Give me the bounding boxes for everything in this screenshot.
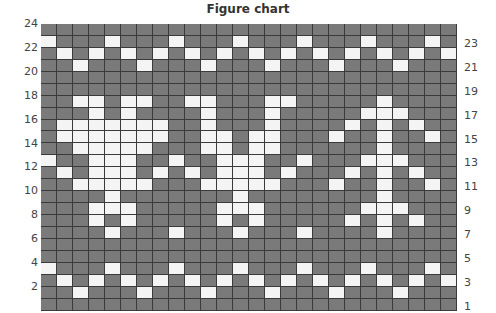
grid-cell bbox=[441, 131, 457, 143]
grid-cell bbox=[105, 24, 121, 36]
grid-cell bbox=[185, 263, 201, 275]
grid-cell bbox=[73, 131, 89, 143]
grid-cell bbox=[233, 299, 249, 311]
grid-cell bbox=[313, 299, 329, 311]
grid-cell bbox=[345, 131, 361, 143]
grid-cell bbox=[153, 263, 169, 275]
grid-cell bbox=[105, 287, 121, 299]
grid-cell bbox=[425, 72, 441, 84]
grid-cell bbox=[409, 251, 425, 263]
grid-cell bbox=[153, 108, 169, 120]
grid-cell bbox=[361, 72, 377, 84]
grid-cell bbox=[265, 263, 281, 275]
grid-cell bbox=[297, 108, 313, 120]
grid-cell bbox=[329, 179, 345, 191]
grid-cell bbox=[57, 72, 73, 84]
grid-cell bbox=[153, 143, 169, 155]
grid-cell bbox=[393, 60, 409, 72]
grid-cell bbox=[361, 215, 377, 227]
grid-cell bbox=[313, 84, 329, 96]
grid-cell bbox=[281, 299, 297, 311]
grid-cell bbox=[57, 239, 73, 251]
grid-cell bbox=[361, 48, 377, 60]
grid-cell bbox=[281, 72, 297, 84]
grid-cell bbox=[345, 251, 361, 263]
grid-cell bbox=[217, 120, 233, 132]
grid-cell bbox=[185, 84, 201, 96]
grid-cell bbox=[201, 96, 217, 108]
grid-cell bbox=[265, 120, 281, 132]
grid-cell bbox=[233, 179, 249, 191]
grid-cell bbox=[121, 155, 137, 167]
grid-cell bbox=[297, 167, 313, 179]
grid-cell bbox=[217, 84, 233, 96]
grid-cell bbox=[121, 48, 137, 60]
grid-cell bbox=[313, 167, 329, 179]
grid-cell bbox=[441, 60, 457, 72]
grid-cell bbox=[201, 191, 217, 203]
grid-cell bbox=[185, 96, 201, 108]
grid-cell bbox=[41, 84, 57, 96]
grid-cell bbox=[329, 203, 345, 215]
grid-cell bbox=[265, 227, 281, 239]
grid-cell bbox=[57, 48, 73, 60]
grid-cell bbox=[265, 191, 281, 203]
grid-cell bbox=[425, 287, 441, 299]
grid-cell bbox=[105, 143, 121, 155]
grid-cell bbox=[73, 48, 89, 60]
grid-cell bbox=[345, 108, 361, 120]
grid-cell bbox=[233, 96, 249, 108]
grid-cell bbox=[57, 227, 73, 239]
grid-cell bbox=[121, 287, 137, 299]
grid-cell bbox=[41, 167, 57, 179]
grid-cell bbox=[185, 60, 201, 72]
grid-cell bbox=[73, 155, 89, 167]
grid-cell bbox=[313, 72, 329, 84]
grid-cell bbox=[153, 60, 169, 72]
grid-cell bbox=[233, 203, 249, 215]
grid-cell bbox=[73, 239, 89, 251]
grid-cell bbox=[89, 251, 105, 263]
grid-cell bbox=[265, 251, 281, 263]
grid-cell bbox=[73, 227, 89, 239]
row-label-right: 9 bbox=[464, 205, 484, 217]
row-label-right: 23 bbox=[464, 38, 484, 50]
grid-cell bbox=[377, 84, 393, 96]
grid-cell bbox=[169, 239, 185, 251]
grid-cell bbox=[57, 299, 73, 311]
grid-cell bbox=[425, 96, 441, 108]
grid-cell bbox=[297, 120, 313, 132]
grid-cell bbox=[121, 215, 137, 227]
grid-cell bbox=[281, 36, 297, 48]
grid-cell bbox=[105, 275, 121, 287]
grid-cell bbox=[57, 36, 73, 48]
grid-cell bbox=[441, 287, 457, 299]
grid-cell bbox=[345, 239, 361, 251]
grid-cell bbox=[137, 84, 153, 96]
grid-cell bbox=[409, 131, 425, 143]
grid-cell bbox=[377, 227, 393, 239]
grid-cell bbox=[281, 143, 297, 155]
grid-cell bbox=[89, 227, 105, 239]
grid-cell bbox=[313, 24, 329, 36]
grid-cell bbox=[281, 120, 297, 132]
grid-cell bbox=[313, 215, 329, 227]
grid-cell bbox=[441, 215, 457, 227]
row-label-left: 10 bbox=[22, 185, 38, 197]
grid-cell bbox=[121, 120, 137, 132]
grid-cell bbox=[297, 48, 313, 60]
grid-cell bbox=[89, 275, 105, 287]
grid-cell bbox=[89, 96, 105, 108]
grid-cell bbox=[121, 191, 137, 203]
grid-cell bbox=[89, 60, 105, 72]
grid-cell bbox=[297, 155, 313, 167]
grid-cell bbox=[57, 191, 73, 203]
grid-cell bbox=[73, 203, 89, 215]
grid-cell bbox=[361, 108, 377, 120]
grid-cell bbox=[377, 263, 393, 275]
grid-cell bbox=[361, 60, 377, 72]
grid-cell bbox=[425, 227, 441, 239]
grid-cell bbox=[361, 227, 377, 239]
grid-cell bbox=[41, 60, 57, 72]
grid-cell bbox=[73, 72, 89, 84]
